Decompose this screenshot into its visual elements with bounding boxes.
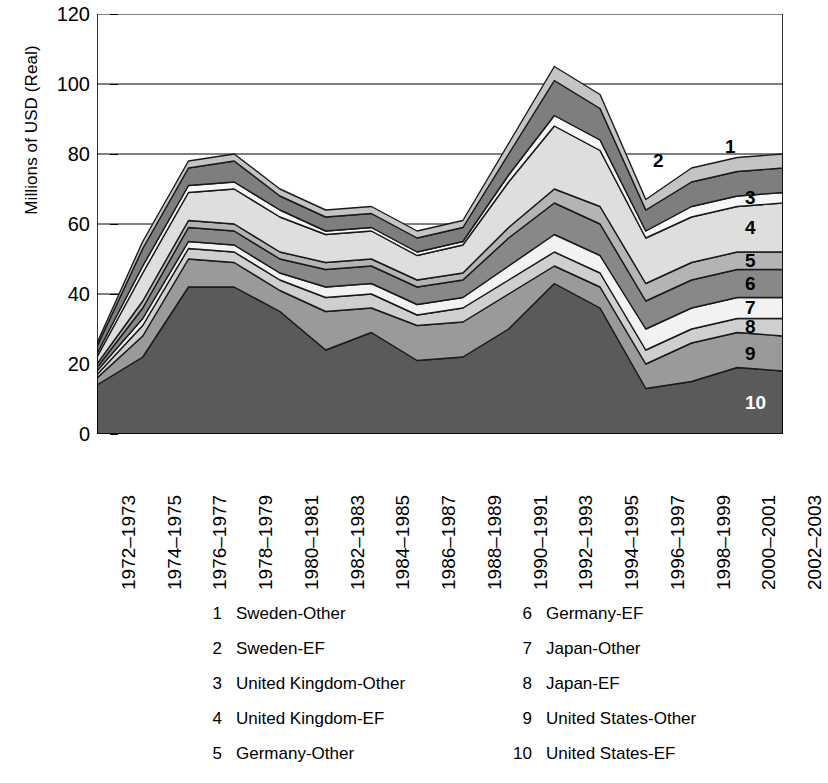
legend-item-label: Germany-EF (546, 604, 643, 624)
chart-figure: Millions of USD (Real) 020406080100120 1… (0, 0, 828, 783)
y-axis-tick-labels: 020406080100120 (20, 0, 90, 450)
x-axis-tick-label: 1986–1987 (438, 440, 460, 590)
series-label-7: 7 (745, 298, 756, 317)
legend: 1Sweden-Other2Sweden-EF3United Kingdom-O… (0, 604, 828, 783)
series-label-4: 4 (745, 218, 756, 237)
series-label-1: 1 (725, 137, 736, 156)
x-axis-tick-label: 1976–1977 (209, 440, 231, 590)
legend-column-left: 1Sweden-Other2Sweden-EF3United Kingdom-O… (188, 604, 405, 779)
legend-item-label: Japan-EF (546, 674, 620, 694)
legend-item-number: 10 (498, 744, 532, 764)
legend-item: 3United Kingdom-Other (188, 674, 405, 709)
legend-item-number: 5 (188, 744, 222, 764)
legend-item-number: 3 (188, 674, 222, 694)
legend-item-label: Sweden-Other (236, 604, 346, 624)
legend-item-label: Germany-Other (236, 744, 354, 764)
y-axis-tick-mark (110, 434, 118, 435)
x-axis-tick-label: 2002–2003 (804, 440, 826, 590)
x-axis-tick-label: 1980–1981 (301, 440, 323, 590)
legend-item: 7Japan-Other (498, 639, 696, 674)
x-axis-tick-label: 1994–1995 (621, 440, 643, 590)
legend-item-label: United States-EF (546, 744, 675, 764)
series-label-9: 9 (745, 344, 756, 363)
x-axis-tick-label: 1972–1973 (118, 440, 140, 590)
legend-item: 9United States-Other (498, 709, 696, 744)
area-bands (97, 67, 783, 435)
series-label-8: 8 (745, 317, 756, 336)
legend-item-number: 7 (498, 639, 532, 659)
x-axis-tick-label: 1978–1979 (255, 440, 277, 590)
legend-item-number: 1 (188, 604, 222, 624)
x-axis-tick-label: 1998–1999 (713, 440, 735, 590)
series-label-2: 2 (653, 151, 664, 170)
legend-item-number: 6 (498, 604, 532, 624)
stacked-area-plot (97, 14, 783, 434)
y-axis-tick-label: 100 (26, 74, 90, 94)
legend-item-label: Sweden-EF (236, 639, 325, 659)
legend-item-label: United Kingdom-Other (236, 674, 405, 694)
legend-item-number: 4 (188, 709, 222, 729)
plot-area: 10987654321 (97, 14, 783, 434)
x-axis-tick-label: 1996–1997 (667, 440, 689, 590)
legend-item-number: 8 (498, 674, 532, 694)
y-axis-tick-label: 120 (26, 4, 90, 24)
x-axis-tick-label: 1990–1991 (530, 440, 552, 590)
y-axis-tick-label: 20 (26, 354, 90, 374)
legend-item-number: 2 (188, 639, 222, 659)
legend-item: 4United Kingdom-EF (188, 709, 405, 744)
x-axis-tick-labels: 1972–19731974–19751976–19771978–19791980… (0, 440, 828, 610)
x-axis-tick-label: 1974–1975 (164, 440, 186, 590)
legend-item-label: Japan-Other (546, 639, 641, 659)
legend-item-label: United Kingdom-EF (236, 709, 384, 729)
legend-item-number: 9 (498, 709, 532, 729)
x-axis-tick-label: 1984–1985 (392, 440, 414, 590)
legend-item-label: United States-Other (546, 709, 696, 729)
legend-item: 2Sweden-EF (188, 639, 405, 674)
x-axis-tick-label: 1982–1983 (347, 440, 369, 590)
series-label-6: 6 (745, 274, 756, 293)
x-axis-tick-label: 1992–1993 (575, 440, 597, 590)
legend-item: 1Sweden-Other (188, 604, 405, 639)
series-label-3: 3 (745, 188, 756, 207)
y-axis-tick-label: 60 (26, 214, 90, 234)
series-label-10: 10 (745, 393, 766, 412)
legend-item: 6Germany-EF (498, 604, 696, 639)
x-axis-tick-label: 2000–2001 (758, 440, 780, 590)
legend-item: 8Japan-EF (498, 674, 696, 709)
series-label-5: 5 (745, 251, 756, 270)
y-axis-tick-label: 80 (26, 144, 90, 164)
legend-column-right: 6Germany-EF7Japan-Other8Japan-EF9United … (498, 604, 696, 779)
x-axis-tick-label: 1988–1989 (484, 440, 506, 590)
legend-item: 10United States-EF (498, 744, 696, 779)
y-axis-tick-label: 40 (26, 284, 90, 304)
legend-item: 5Germany-Other (188, 744, 405, 779)
